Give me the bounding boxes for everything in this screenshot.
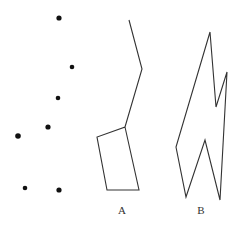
figure-a-polyline <box>97 20 142 190</box>
dot-6 <box>23 186 28 191</box>
dot-5 <box>15 133 21 139</box>
dot-7 <box>56 187 61 192</box>
dot-set <box>15 15 74 192</box>
dot-3 <box>56 96 61 101</box>
dot-4 <box>45 124 50 129</box>
diagram-canvas: A B <box>0 0 239 226</box>
dot-2 <box>70 65 75 70</box>
figure-b-label: B <box>197 204 204 216</box>
figure-a-label: A <box>118 204 126 216</box>
figure-b-polygon <box>176 32 227 200</box>
dot-1 <box>56 15 61 20</box>
